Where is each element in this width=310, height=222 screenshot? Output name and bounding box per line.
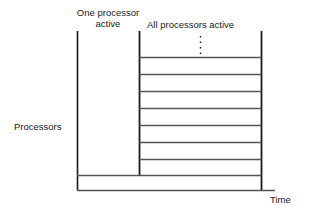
one-processor-active-label: One processor active [72, 7, 144, 29]
all-processors-active-label: All processors active [147, 19, 267, 30]
processor-activity-diagram: One processor active All processors acti… [0, 0, 310, 222]
diagram-canvas [0, 0, 310, 222]
one-processor-active-label-line2: active [96, 18, 121, 29]
x-axis-label: Time [270, 194, 291, 205]
one-processor-active-label-line1: One processor [77, 7, 139, 18]
y-axis-label: Processors [14, 121, 62, 132]
